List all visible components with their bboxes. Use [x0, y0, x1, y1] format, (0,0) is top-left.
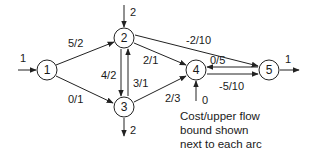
node-4: 4	[186, 60, 206, 80]
caption-line-2: bound shown	[180, 124, 248, 136]
svg-text:4/2: 4/2	[101, 69, 116, 81]
arc-2-3: 4/2	[101, 49, 121, 96]
node-3: 3	[114, 97, 134, 117]
svg-text:1: 1	[44, 63, 51, 77]
svg-text:-2/10: -2/10	[186, 34, 211, 46]
caption-line-1: Cost/upper flow	[180, 110, 261, 122]
svg-text:5: 5	[266, 63, 273, 77]
arc-4-5: -5/10	[207, 74, 258, 92]
external-flow-node-5-out: 1	[280, 53, 299, 70]
svg-text:0: 0	[202, 94, 208, 106]
arc-1-2: 5/2	[56, 37, 114, 65]
external-flow-node-4-in: 0	[196, 81, 208, 106]
svg-text:2: 2	[121, 31, 128, 45]
svg-text:2: 2	[130, 6, 136, 18]
svg-text:5/2: 5/2	[68, 37, 83, 49]
svg-text:4: 4	[193, 63, 200, 77]
svg-text:1: 1	[285, 53, 291, 65]
external-flow-node-3-out: 2	[124, 118, 136, 136]
arc-5-4: 0/5	[207, 54, 258, 67]
node-5: 5	[259, 60, 279, 80]
arc-2-4: 2/1	[134, 43, 186, 66]
svg-text:0/5: 0/5	[210, 54, 225, 66]
external-flow-node-2-in: 2	[124, 5, 136, 27]
svg-text:1: 1	[20, 52, 26, 64]
caption: Cost/upper flow bound shown next to each…	[180, 110, 262, 150]
node-1: 1	[37, 60, 57, 80]
svg-text:2: 2	[130, 124, 136, 136]
svg-text:3: 3	[121, 100, 128, 114]
node-2: 2	[114, 28, 134, 48]
svg-text:3/1: 3/1	[133, 77, 148, 89]
svg-text:-5/10: -5/10	[219, 80, 244, 92]
svg-text:2/3: 2/3	[165, 92, 180, 104]
caption-line-3: next to each arc	[180, 138, 262, 150]
network-flow-diagram: 1 2 2 0 1 5/2 0/1 4/2 3/1 2/1 -2/10	[0, 0, 318, 158]
svg-text:0/1: 0/1	[68, 93, 83, 105]
external-flow-node-1-in: 1	[18, 52, 36, 70]
svg-text:2/1: 2/1	[143, 54, 158, 66]
